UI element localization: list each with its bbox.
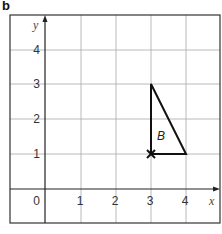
y-tick-2: 2 <box>33 112 40 126</box>
shape-label: B <box>157 129 165 143</box>
y-axis-arrow-icon <box>43 15 48 22</box>
x-tick-2: 2 <box>112 194 119 208</box>
grid-lines <box>10 15 220 223</box>
x-axis-label: x <box>208 194 215 208</box>
y-tick-1: 1 <box>33 147 40 161</box>
x-tick-3: 3 <box>147 194 154 208</box>
x-tick-1: 1 <box>77 194 84 208</box>
x-tick-4: 4 <box>182 194 189 208</box>
y-tick-4: 4 <box>33 43 40 57</box>
x-tick-0: 0 <box>33 194 40 208</box>
y-tick-3: 3 <box>33 77 40 91</box>
y-axis-label: y <box>32 18 39 32</box>
x-axis-arrow-icon <box>213 187 220 192</box>
coordinate-grid: 4 3 2 1 0 1 2 3 4 y x B <box>0 0 222 234</box>
